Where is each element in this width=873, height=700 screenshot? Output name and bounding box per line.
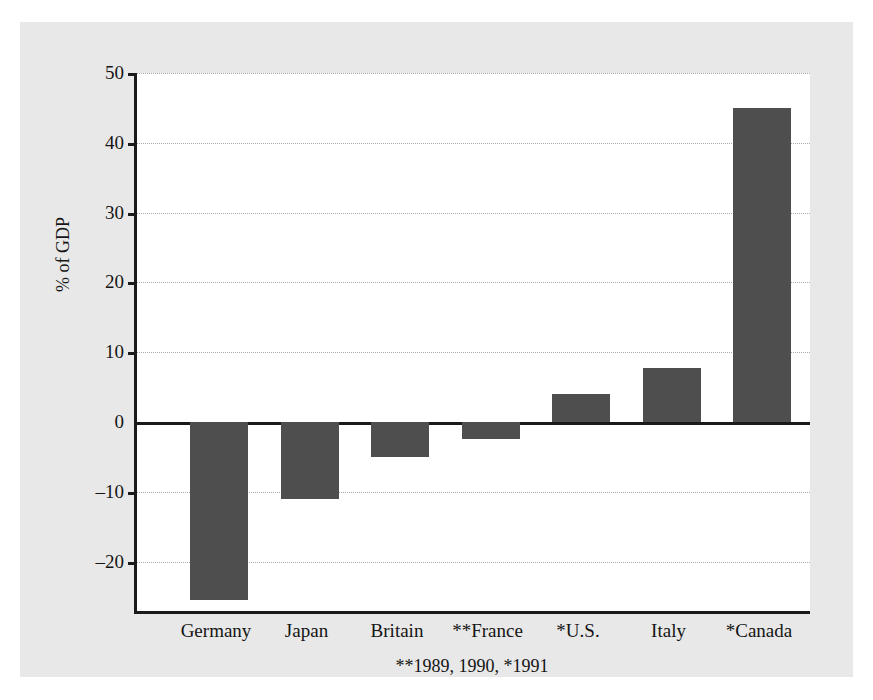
top-cutoff-strip	[0, 0, 873, 22]
y-axis-tick	[128, 492, 137, 495]
gridline	[137, 352, 810, 353]
bar-japan	[281, 422, 339, 499]
y-axis-tick-label: 20	[105, 271, 124, 293]
y-axis-title: % of GDP	[53, 217, 74, 292]
y-axis-tick-label: 50	[105, 62, 124, 84]
y-axis-tick	[128, 282, 137, 285]
x-axis-tick-label: Germany	[181, 620, 252, 642]
y-axis-tick-label: 40	[105, 132, 124, 154]
bar-france	[462, 422, 520, 439]
chart-footnote: **1989, 1990, *1991	[134, 656, 810, 677]
x-axis-tick-label: **France	[452, 620, 523, 642]
x-axis-tick-label: *Canada	[726, 620, 792, 642]
y-axis-tick-labels: 50403020100–10–20	[62, 73, 124, 614]
y-axis-tick	[128, 73, 137, 76]
x-axis-tick-label: Britain	[371, 620, 424, 642]
x-axis-tick-label: Japan	[285, 620, 328, 642]
x-axis-tick-labels: GermanyJapanBritain**France*U.S.Italy*Ca…	[134, 620, 810, 654]
gridline	[137, 282, 810, 283]
gridline	[137, 213, 810, 214]
plot-frame	[134, 73, 810, 614]
bar-britain	[371, 422, 429, 457]
x-axis-tick-label: *U.S.	[556, 620, 599, 642]
y-axis-tick	[128, 213, 137, 216]
y-axis-tick-label: 10	[105, 341, 124, 363]
y-axis-tick	[128, 143, 137, 146]
x-axis-tick-label: Italy	[651, 620, 686, 642]
y-axis-tick	[128, 562, 137, 565]
gridline	[137, 143, 810, 144]
gridline	[137, 73, 810, 74]
bar-germany	[190, 422, 248, 600]
plot-area	[137, 73, 810, 611]
chart-figure-panel: 50403020100–10–20 % of GDP GermanyJapanB…	[20, 22, 853, 677]
bar-italy	[643, 368, 701, 422]
y-axis-tick-label: 30	[105, 202, 124, 224]
bar-canada	[733, 108, 791, 422]
y-axis-tick	[128, 352, 137, 355]
y-axis-tick-label: –10	[96, 481, 125, 503]
y-axis-tick-label: 0	[115, 411, 125, 433]
bar-us	[552, 394, 610, 422]
y-axis-tick-label: –20	[96, 551, 125, 573]
